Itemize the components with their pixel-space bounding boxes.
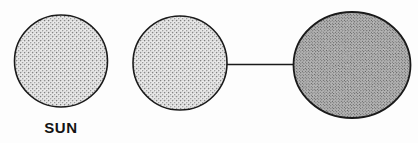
right-circle (294, 12, 411, 118)
sun-label: SUN (44, 119, 77, 136)
figure-container: SUN (0, 0, 418, 143)
sun-circle (15, 15, 108, 107)
diagram-canvas: SUN (0, 0, 418, 143)
middle-circle (133, 16, 227, 110)
